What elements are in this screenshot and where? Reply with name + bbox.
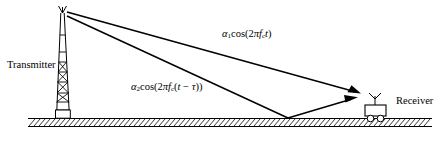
minus-symbol: − [180,81,191,92]
reflected-path-ray [67,16,358,118]
close-paren: )) [195,81,202,92]
direct-path-formula: α1cos(2πfct) [222,29,271,40]
cos-open: cos(2 [231,28,254,39]
transmitter-tower [56,6,71,118]
receiver-antenna-icon [369,93,381,105]
reflected-path-formula: α2cos(2πfc(t − τ)) [131,82,202,93]
propagation-diagram [0,0,443,146]
direct-path-ray [67,12,361,94]
cos-open: cos(2 [140,81,163,92]
figure-canvas: Transmitter Receiver α1cos(2πfct) α2cos(… [0,0,443,146]
close-paren: ) [268,28,272,39]
receiver-vehicle [365,93,386,122]
transmitter-antenna-icon [59,6,67,13]
transmitter-label: Transmitter [7,60,56,71]
receiver-label: Receiver [396,96,433,107]
